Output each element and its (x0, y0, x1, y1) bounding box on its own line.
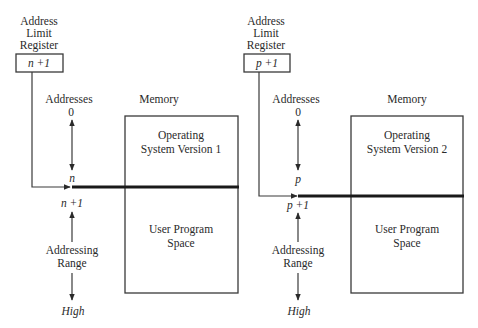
range-label-line: Addressing (272, 244, 325, 257)
boundary-address: n (69, 172, 75, 184)
end-address: High (287, 305, 311, 318)
panel-version-2: Address Limit Register p +1 Addresses 0 … (244, 15, 464, 318)
os-label-line: System Version 1 (141, 143, 222, 156)
register-value: p +1 (255, 57, 278, 70)
os-label-line: Operating (384, 129, 430, 142)
register-title-line: Address (247, 15, 285, 27)
os-label-line: Operating (158, 129, 204, 142)
range-label-line: Range (57, 257, 86, 270)
addresses-label: Addresses (272, 93, 320, 105)
register-title-line: Limit (26, 27, 52, 39)
register-title-line: Register (20, 39, 58, 52)
register-connector-arrow (259, 72, 297, 196)
range-label-line: Addressing (46, 244, 99, 257)
start-address: 0 (68, 106, 74, 118)
register-title-line: Limit (253, 27, 279, 39)
user-label-line: User Program (149, 223, 213, 236)
addresses-label: Addresses (45, 93, 93, 105)
end-address: High (61, 305, 85, 318)
register-title: Address Limit Register (247, 15, 286, 52)
next-address: n +1 (61, 197, 83, 209)
boundary-address: p (294, 173, 301, 186)
register-title-line: Address (20, 15, 58, 27)
user-label-line: Space (393, 237, 420, 250)
register-title-line: Register (247, 39, 285, 52)
register-connector-arrow (32, 72, 70, 187)
user-label-line: User Program (375, 223, 439, 236)
register-title: Address Limit Register (20, 15, 59, 52)
user-label-line: Space (167, 237, 194, 250)
memory-label: Memory (139, 93, 179, 106)
register-value: n +1 (28, 57, 50, 69)
os-label-line: System Version 2 (367, 143, 448, 156)
next-address: p +1 (286, 199, 309, 212)
memory-label: Memory (387, 93, 427, 106)
address-limit-register-diagram: Address Limit Register n +1 Addresses 0 … (0, 0, 478, 328)
range-label-line: Range (283, 257, 312, 270)
panel-version-1: Address Limit Register n +1 Addresses 0 … (16, 15, 239, 318)
start-address: 0 (295, 106, 301, 118)
